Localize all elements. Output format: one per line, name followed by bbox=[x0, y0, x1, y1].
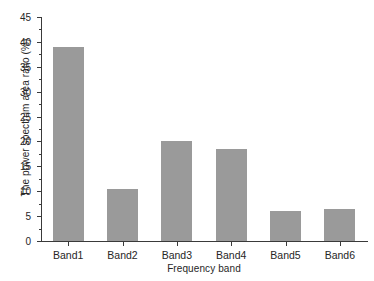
y-minor-tick bbox=[39, 29, 41, 30]
y-tick-40: 40 bbox=[37, 42, 41, 43]
y-minor-tick bbox=[39, 229, 41, 230]
y-tick-0: 0 bbox=[37, 241, 41, 242]
bar-chart-figure: The power spectrum area ratio (%) 051015… bbox=[0, 0, 374, 281]
y-tick-10: 10 bbox=[37, 191, 41, 192]
y-tick-label: 5 bbox=[25, 211, 31, 222]
y-tick-label: 45 bbox=[20, 12, 31, 23]
y-tick-label: 35 bbox=[20, 61, 31, 72]
y-tick-label: 25 bbox=[20, 111, 31, 122]
x-tick-band5 bbox=[286, 242, 287, 246]
x-tick-band4 bbox=[231, 242, 232, 246]
y-tick-label: 15 bbox=[20, 161, 31, 172]
bar-band1 bbox=[53, 47, 84, 241]
y-minor-tick bbox=[39, 54, 41, 55]
y-minor-tick bbox=[39, 204, 41, 205]
bar-band5 bbox=[270, 211, 301, 241]
x-tick-band3 bbox=[177, 242, 178, 246]
x-tick-label-band5: Band5 bbox=[270, 249, 300, 261]
x-axis-line bbox=[41, 241, 368, 242]
x-tick-band6 bbox=[340, 242, 341, 246]
y-tick-20: 20 bbox=[37, 141, 41, 142]
bar-band2 bbox=[107, 189, 138, 241]
y-tick-label: 10 bbox=[20, 186, 31, 197]
y-tick-35: 35 bbox=[37, 67, 41, 68]
x-tick-label-band4: Band4 bbox=[216, 249, 246, 261]
bar-band6 bbox=[324, 209, 355, 241]
x-axis-title: Frequency band bbox=[41, 263, 367, 274]
x-tick-band2 bbox=[123, 242, 124, 246]
bar-band3 bbox=[161, 141, 192, 241]
x-tick-label-band2: Band2 bbox=[107, 249, 137, 261]
x-tick-label-band3: Band3 bbox=[162, 249, 192, 261]
x-tick-label-band6: Band6 bbox=[325, 249, 355, 261]
y-tick-25: 25 bbox=[37, 117, 41, 118]
y-tick-15: 15 bbox=[37, 166, 41, 167]
y-tick-label: 20 bbox=[20, 136, 31, 147]
y-tick-label: 30 bbox=[20, 86, 31, 97]
y-minor-tick bbox=[39, 129, 41, 130]
x-tick-label-band1: Band1 bbox=[53, 249, 83, 261]
y-tick-label: 0 bbox=[25, 236, 31, 247]
x-tick-band1 bbox=[68, 242, 69, 246]
plot-area: 051015202530354045 Band1Band2Band3Band4B… bbox=[41, 17, 367, 241]
y-tick-label: 40 bbox=[20, 36, 31, 47]
y-minor-tick bbox=[39, 179, 41, 180]
y-minor-tick bbox=[39, 79, 41, 80]
y-minor-tick bbox=[39, 154, 41, 155]
bar-band4 bbox=[216, 149, 247, 241]
y-minor-tick bbox=[39, 104, 41, 105]
y-tick-30: 30 bbox=[37, 92, 41, 93]
y-tick-5: 5 bbox=[37, 216, 41, 217]
y-axis-line bbox=[41, 17, 42, 242]
y-tick-45: 45 bbox=[37, 17, 41, 18]
